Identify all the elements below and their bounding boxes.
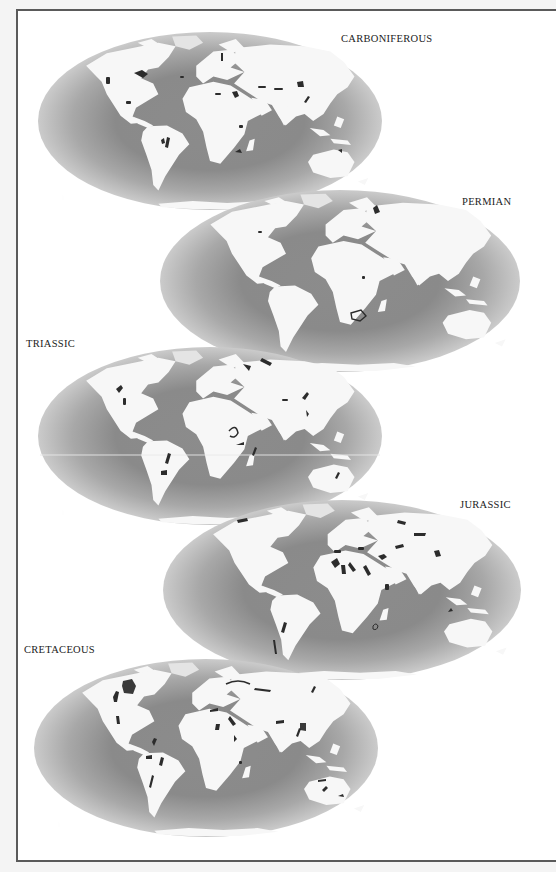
map-jurassic	[163, 500, 521, 680]
map-triassic	[38, 347, 382, 525]
label-carboniferous: CARBONIFEROUS	[341, 34, 432, 45]
label-permian: PERMIAN	[462, 197, 511, 208]
label-triassic: TRIASSIC	[26, 339, 75, 350]
label-cretaceous: CRETACEOUS	[24, 645, 95, 656]
map-cretaceous	[34, 659, 378, 837]
map-permian	[160, 190, 520, 372]
map-carboniferous	[38, 32, 382, 210]
label-jurassic: JURASSIC	[460, 500, 511, 511]
